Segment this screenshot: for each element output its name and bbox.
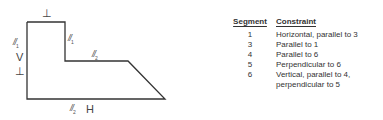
- table-row: 5 Perpendicular to 6: [224, 60, 383, 70]
- table-header: Segment Constraint: [224, 17, 383, 27]
- constraint-cell: Parallel to 6: [276, 50, 383, 60]
- segment-cell: 6: [224, 70, 276, 80]
- segment-cell: 5: [224, 60, 276, 70]
- vertical-label: V: [16, 52, 23, 63]
- perpendicular-icon: ⊥: [42, 8, 52, 19]
- constraint-table: Segment Constraint 1 Horizontal, paralle…: [224, 17, 383, 90]
- constraint-cell: Parallel to 1: [276, 40, 383, 50]
- header-constraint: Constraint: [276, 17, 383, 27]
- table-row: 1 Horizontal, parallel to 3: [224, 30, 383, 40]
- segment-cell: 3: [224, 40, 276, 50]
- sketch-outline: [0, 0, 200, 120]
- parallel-icon: //1: [13, 38, 19, 49]
- segment-cell: [224, 80, 276, 90]
- table-row: 3 Parallel to 1: [224, 40, 383, 50]
- parallel-icon: //1: [68, 34, 74, 45]
- perpendicular-icon: ⊥: [15, 66, 25, 77]
- constraint-sketch: ⊥ //1 V ⊥ //1 //2 //2 H: [0, 0, 200, 120]
- parallel-icon: //2: [70, 104, 76, 115]
- constraint-cell: Vertical, parallel to 4,: [276, 70, 383, 80]
- segment-cell: 1: [224, 30, 276, 40]
- segment-cell: 4: [224, 50, 276, 60]
- header-segment: Segment: [224, 17, 276, 27]
- horizontal-label: H: [86, 104, 94, 115]
- table-row: 4 Parallel to 6: [224, 50, 383, 60]
- constraint-cell: perpendicular to 5: [276, 80, 383, 90]
- table-row: 6 Vertical, parallel to 4,: [224, 70, 383, 80]
- constraint-cell: Perpendicular to 6: [276, 60, 383, 70]
- table-row: perpendicular to 5: [224, 80, 383, 90]
- constraint-cell: Horizontal, parallel to 3: [276, 30, 383, 40]
- parallel-icon: //2: [92, 50, 98, 61]
